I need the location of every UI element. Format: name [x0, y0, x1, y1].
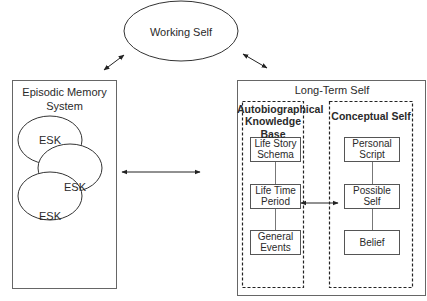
working-self-label: Working Self	[124, 26, 238, 39]
life-story-schema-line2: Schema	[250, 149, 301, 161]
esk-label-3: ESK	[25, 210, 75, 223]
arrow-working-episodic	[104, 55, 124, 70]
possible-self-line2: Self	[344, 196, 400, 208]
episodic-memory-title-line2: System	[12, 100, 117, 113]
episodic-memory-title-line1: Episodic Memory	[12, 86, 117, 99]
general-events-line2: Events	[250, 242, 301, 254]
belief-label: Belief	[344, 237, 400, 249]
esk-label-1: ESK	[25, 134, 75, 147]
life-time-period-line2: Period	[250, 196, 301, 208]
long-term-self-title: Long-Term Self	[237, 84, 427, 97]
arrow-working-longterm	[243, 54, 267, 68]
personal-script-line2: Script	[344, 149, 400, 161]
esk-label-2: ESK	[50, 181, 100, 194]
conceptual-self-title: Conceptual Self	[329, 110, 413, 123]
